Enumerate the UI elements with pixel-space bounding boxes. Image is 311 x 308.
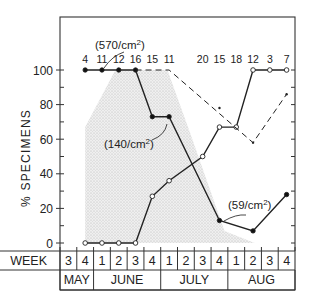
- y-tick-label: 60: [40, 133, 54, 147]
- sample-count: 11: [97, 53, 108, 65]
- month-cell: JUNE: [111, 273, 144, 287]
- week-cell: 3: [65, 254, 72, 268]
- open-marker: [200, 154, 205, 159]
- week-cell: 4: [216, 254, 223, 268]
- open-marker: [251, 68, 256, 73]
- y-tick-label: 0: [46, 237, 53, 251]
- filled-marker: [100, 68, 104, 72]
- annotation-59-leader: [224, 215, 246, 221]
- filled-marker: [284, 192, 288, 196]
- week-cell: 3: [266, 254, 273, 268]
- open-marker: [100, 241, 105, 246]
- week-cell: 1: [166, 254, 173, 268]
- open-marker: [268, 68, 273, 73]
- open-marker: [167, 178, 172, 183]
- month-cell: MAY: [64, 273, 91, 287]
- sample-count: 18: [230, 53, 242, 65]
- sample-count: 16: [130, 53, 142, 65]
- filled-marker: [217, 218, 221, 222]
- open-marker: [150, 194, 155, 199]
- annotation-59: (59/cm2): [228, 198, 272, 211]
- sample-count: 15: [214, 53, 226, 65]
- filled-marker: [167, 115, 171, 119]
- dash-marker: [285, 93, 287, 95]
- open-marker: [133, 241, 138, 246]
- week-cell: 3: [199, 254, 206, 268]
- sample-counts: 411121615112015181237: [82, 53, 289, 65]
- open-marker: [116, 241, 121, 246]
- y-tick-label: 20: [40, 202, 54, 216]
- dash-marker: [218, 107, 220, 109]
- y-tick-label: 40: [40, 167, 54, 181]
- filled-marker: [251, 229, 255, 233]
- sample-count: 15: [146, 53, 158, 65]
- filled-marker: [83, 68, 87, 72]
- sample-count: 12: [247, 53, 259, 65]
- week-cell: 3: [132, 254, 139, 268]
- y-tick-label: 100: [33, 64, 53, 78]
- sample-count: 20: [197, 53, 209, 65]
- week-month-table: WEEK34123412341234MAYJUNEJULYAUG: [0, 251, 295, 290]
- filled-marker: [150, 115, 154, 119]
- week-cell: 4: [149, 254, 156, 268]
- open-marker: [83, 241, 88, 246]
- week-cell: 2: [250, 254, 257, 268]
- week-cell: 4: [283, 254, 290, 268]
- week-cell: 4: [82, 254, 89, 268]
- week-header: WEEK: [10, 254, 47, 268]
- sample-count: 7: [284, 53, 290, 65]
- stippled-area: [85, 70, 255, 243]
- chart: 020406080100 411121615112015181237 (570/…: [0, 0, 311, 308]
- week-cell: 1: [98, 254, 105, 268]
- week-cell: 2: [182, 254, 189, 268]
- sample-count: 4: [82, 53, 88, 65]
- sample-count: 3: [267, 53, 273, 65]
- sample-count: 11: [164, 53, 175, 65]
- dash-marker: [252, 141, 254, 143]
- shaded-region: [85, 70, 255, 243]
- filled-marker: [117, 68, 121, 72]
- y-tick-label: 80: [40, 98, 54, 112]
- open-marker: [284, 68, 289, 73]
- week-cell: 1: [233, 254, 240, 268]
- month-cell: AUG: [248, 273, 275, 287]
- open-marker: [217, 125, 222, 130]
- month-cell: JULY: [179, 273, 209, 287]
- annotation-570: (570/cm2): [95, 38, 145, 51]
- sample-count: 12: [113, 53, 125, 65]
- week-cell: 2: [115, 254, 122, 268]
- y-axis-label: % SPECIMENS: [19, 109, 33, 207]
